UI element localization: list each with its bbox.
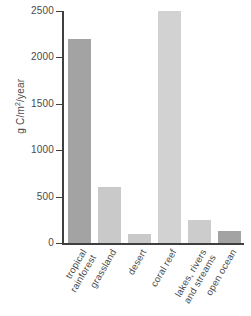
x-axis-line <box>62 243 244 245</box>
bar-chart: g C/m2/year 05001000150020002500 tropica… <box>0 0 251 316</box>
x-axis-label-grassland: grassland <box>94 247 124 316</box>
y-tick-1500: 1500 <box>0 104 62 105</box>
y-tick-mark <box>56 150 62 151</box>
x-axis-label-text: desert <box>125 247 148 276</box>
bar-lakes-rivers-and-streams[interactable] <box>188 220 211 243</box>
y-tick-2000: 2000 <box>0 57 62 58</box>
bar-grassland[interactable] <box>98 187 121 243</box>
bar-desert[interactable] <box>128 234 151 243</box>
y-tick-label: 2500 <box>2 5 54 16</box>
y-axis-label-pre: g C/m <box>15 106 26 134</box>
plot-area <box>64 11 244 243</box>
bar-open-ocean[interactable] <box>218 231 241 243</box>
y-tick-1000: 1000 <box>0 150 62 151</box>
y-tick-label: 2000 <box>2 51 54 62</box>
y-tick-2500: 2500 <box>0 11 62 12</box>
x-axis-label-open-ocean: open ocean <box>214 247 244 316</box>
bar-coral-reef[interactable] <box>158 11 181 243</box>
x-axis-categories: tropicalrainforestgrasslanddesertcoral r… <box>64 247 244 316</box>
y-tick-mark <box>56 104 62 105</box>
y-tick-500: 500 <box>0 197 62 198</box>
y-tick-mark <box>56 57 62 58</box>
y-tick-label: 1500 <box>2 98 54 109</box>
y-tick-label: 1000 <box>2 144 54 155</box>
y-tick-0: 0 <box>0 243 62 244</box>
y-tick-mark <box>56 197 62 198</box>
y-tick-label: 0 <box>2 237 54 248</box>
y-tick-label: 500 <box>2 191 54 202</box>
y-tick-mark <box>56 243 62 244</box>
bar-tropical-rainforest[interactable] <box>68 39 91 243</box>
y-tick-mark <box>56 11 62 12</box>
